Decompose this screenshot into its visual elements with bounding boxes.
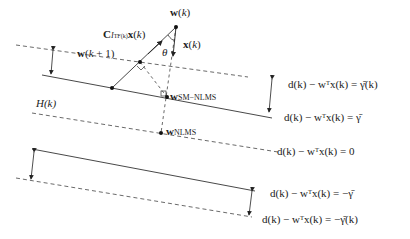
label-c-term: CITF(k)x(k) [103,28,145,40]
left-upper-gap-arrow [51,50,53,74]
point-w-nlms [159,131,163,135]
upper-solid-line [42,75,272,118]
right-lower-gap-arrow [249,191,252,215]
center-dashed-line [32,113,278,152]
right-upper-gap-arrow [269,79,272,112]
point-w-k [174,25,178,29]
right-angle-marker-1 [137,66,145,70]
lower-solid-line [32,149,255,191]
label-w-k1: w(k + 1) [77,47,114,59]
equation-lower-dashed: d(k) − wᵀx(k) = −γ̄(k) [262,213,358,225]
left-lower-gap-arrow [31,152,34,179]
equation-upper-solid: d(k) − wᵀx(k) = γ̄ [284,111,361,123]
equation-lower-solid: d(k) − wᵀx(k) = −γ̄ [270,187,353,199]
point-w-sm-nlms [165,95,169,99]
x-vector-arrow [173,27,176,56]
label-h-k: H(k) [36,97,56,109]
point-on-solid [110,86,114,90]
c-vector-arrow [148,41,162,54]
point-w-k1 [138,60,142,64]
label-w-k: w(k) [170,6,190,18]
right-angle-marker-2 [161,91,166,96]
label-theta: θ [162,46,167,58]
label-w-sm-nlms: wSM−NLMS [170,90,216,102]
equation-upper-dashed: d(k) − wᵀx(k) = γ̄(k) [288,78,378,90]
x-direction-dashed [161,27,176,133]
equation-center-dashed: d(k) − wᵀx(k) = 0 [277,145,355,157]
label-w-nlms: wNLMS [166,125,196,137]
label-x-k: x(k) [183,38,201,50]
